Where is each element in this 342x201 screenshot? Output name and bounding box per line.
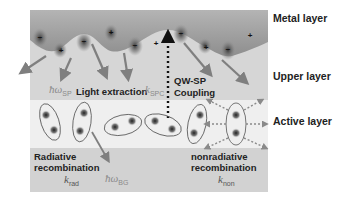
upper-layer-label: Upper layer — [273, 70, 331, 82]
active-layer-label: Active layer — [273, 115, 332, 127]
svg-text:−: − — [226, 45, 231, 54]
svg-text:−: − — [82, 37, 87, 46]
k-non-sub: non — [223, 180, 235, 187]
svg-text:+: + — [154, 39, 159, 48]
active-layer-region — [30, 100, 268, 148]
svg-text:+: + — [59, 46, 64, 55]
qw-sp-coupling-diagram: − + − + − − + − + + — [0, 0, 342, 201]
nonradiative-label-line1: nonradiative — [191, 151, 248, 162]
nonradiative-label-line2: recombination — [191, 162, 256, 173]
k-rad-symbol: krad — [64, 173, 79, 187]
k-rad-sub: rad — [69, 180, 79, 187]
hw-bg-sub: BG — [118, 179, 128, 186]
svg-text:+: + — [248, 31, 253, 40]
k-spc-symbol: kSPC — [145, 83, 164, 97]
k-spc-sub: SPC — [150, 90, 164, 97]
hw-sp-base: ħω — [49, 83, 62, 95]
radiative-label-line2: recombination — [34, 162, 99, 173]
svg-text:+: + — [109, 28, 114, 37]
qw-sp-label-line1: QW-SP — [174, 75, 206, 86]
hw-bg-base: ħω — [105, 172, 118, 184]
hw-bg-symbol: ħωBG — [105, 172, 128, 186]
hw-sp-sub: SP — [62, 90, 71, 97]
light-extraction-label: Light extraction — [76, 86, 147, 97]
metal-layer-label: Metal layer — [273, 12, 327, 24]
radiative-label-line1: Radiative — [34, 151, 76, 162]
svg-text:−: − — [179, 29, 184, 38]
hw-sp-symbol: ħωSP — [49, 83, 72, 97]
svg-text:+: + — [204, 43, 209, 52]
svg-text:−: − — [133, 41, 138, 50]
qw-sp-label-line2: Coupling — [174, 87, 215, 98]
k-non-symbol: knon — [218, 173, 235, 187]
svg-text:−: − — [38, 33, 43, 42]
